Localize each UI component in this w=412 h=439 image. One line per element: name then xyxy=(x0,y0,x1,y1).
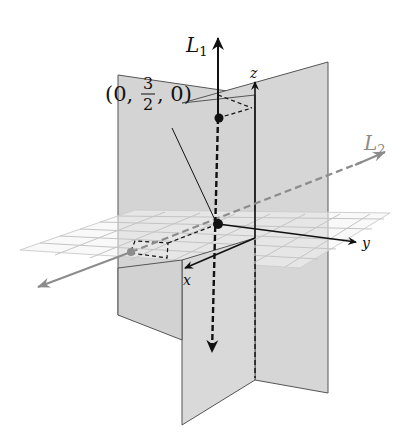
svg-text:3: 3 xyxy=(143,74,153,93)
svg-text:, 0): , 0) xyxy=(157,82,192,106)
label-L1: L1 xyxy=(185,33,208,59)
label-x-axis: x xyxy=(183,272,191,288)
point-intersection xyxy=(213,219,223,229)
L2-point xyxy=(127,248,135,256)
svg-text:2: 2 xyxy=(143,95,153,114)
point-top xyxy=(215,114,224,123)
line-L2-arrow-left xyxy=(38,252,131,287)
label-y-axis: y xyxy=(361,235,371,251)
svg-text:(0,: (0, xyxy=(105,82,133,106)
front-plane xyxy=(118,238,255,425)
diagram-canvas: L1 L2 z y x (0, 3 2 , 0) xyxy=(0,0,412,439)
label-z-axis: z xyxy=(249,65,258,81)
label-L2: L2 xyxy=(363,131,386,157)
